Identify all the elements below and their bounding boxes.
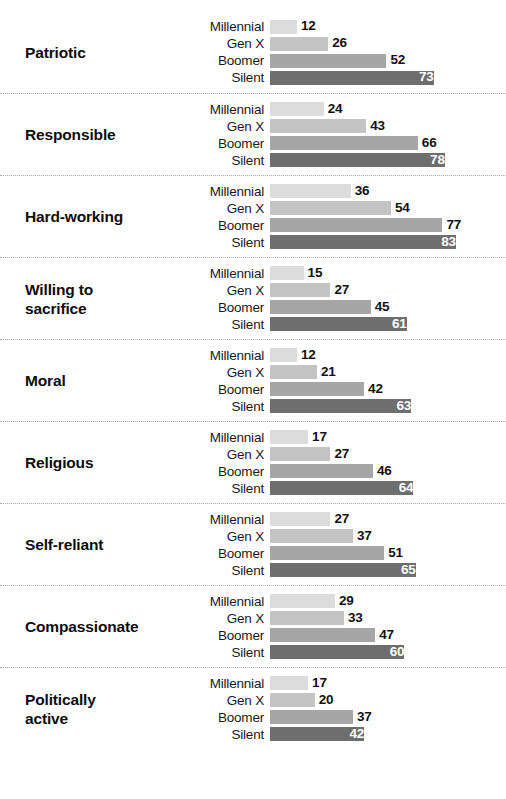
bar-track: 33 xyxy=(270,611,506,626)
bar-group: Millennial17Gen X27Boomer46Silent64 xyxy=(185,427,506,499)
generation-label: Gen X xyxy=(185,693,270,708)
bar-row: Boomer46 xyxy=(185,463,506,480)
bar xyxy=(270,529,353,543)
bar xyxy=(270,136,418,150)
bar-row: Gen X27 xyxy=(185,282,506,299)
bar-row: Silent60 xyxy=(185,644,506,661)
bar-value-label: 20 xyxy=(315,693,334,707)
bar-group: Millennial29Gen X33Boomer47Silent60 xyxy=(185,591,506,663)
generation-label: Boomer xyxy=(185,710,270,725)
generation-label: Silent xyxy=(185,563,270,578)
bar-value-label: 24 xyxy=(324,102,343,116)
bar xyxy=(270,611,344,625)
bar-row: Millennial36 xyxy=(185,183,506,200)
bar-row: Silent65 xyxy=(185,562,506,579)
bar-value-label: 33 xyxy=(344,611,363,625)
generation-label: Silent xyxy=(185,153,270,168)
bar-row: Gen X43 xyxy=(185,118,506,135)
generation-label: Millennial xyxy=(185,102,270,117)
bar xyxy=(270,54,386,68)
category-block: MoralMillennial12Gen X21Boomer42Silent63 xyxy=(0,339,506,421)
bar-row: Silent63 xyxy=(185,398,506,415)
category-block: Hard-workingMillennial36Gen X54Boomer77S… xyxy=(0,175,506,257)
bar-track: 17 xyxy=(270,676,506,691)
generation-label: Boomer xyxy=(185,546,270,561)
bar-value-label: 36 xyxy=(351,184,370,198)
bar-value-label: 51 xyxy=(384,546,403,560)
bar-value-label: 52 xyxy=(386,53,405,67)
bar xyxy=(270,512,330,526)
bar-track: 36 xyxy=(270,184,506,199)
category-block: PoliticallyactiveMillennial17Gen X20Boom… xyxy=(0,667,506,749)
bar-value-label: 64 xyxy=(270,481,417,495)
bar xyxy=(270,546,384,560)
bar-track: 12 xyxy=(270,348,506,363)
category-label-line: Moral xyxy=(25,371,185,390)
chart-footnote xyxy=(24,785,494,797)
bar-track: 77 xyxy=(270,218,506,233)
generation-label: Boomer xyxy=(185,464,270,479)
generation-label: Millennial xyxy=(185,512,270,527)
bar-row: Millennial17 xyxy=(185,429,506,446)
generation-label: Silent xyxy=(185,645,270,660)
bar xyxy=(270,201,391,215)
category-label-line: Willing to xyxy=(25,280,185,299)
bar-value-label: 12 xyxy=(297,348,316,362)
category-label-line: Religious xyxy=(25,453,185,472)
bar-value-label: 47 xyxy=(375,628,394,642)
bar-group: Millennial17Gen X20Boomer37Silent42 xyxy=(185,673,506,745)
category-label: Self-reliant xyxy=(0,535,185,554)
bar-value-label: 17 xyxy=(308,676,327,690)
bar-track: 21 xyxy=(270,365,506,380)
bar-row: Boomer51 xyxy=(185,545,506,562)
bar-track: 52 xyxy=(270,53,506,68)
bar-track: 65 xyxy=(270,563,506,578)
bar-track: 17 xyxy=(270,430,506,445)
bar-row: Millennial12 xyxy=(185,347,506,364)
bar-value-label: 60 xyxy=(270,645,408,659)
bar-value-label: 21 xyxy=(317,365,336,379)
bar xyxy=(270,628,375,642)
bar-row: Boomer42 xyxy=(185,381,506,398)
bar-group: Millennial36Gen X54Boomer77Silent83 xyxy=(185,181,506,253)
bar-row: Silent42 xyxy=(185,726,506,743)
bar-track: 73 xyxy=(270,70,506,85)
bar-row: Boomer37 xyxy=(185,709,506,726)
bar-value-label: 29 xyxy=(335,594,354,608)
bar-track: 83 xyxy=(270,235,506,250)
category-label: Moral xyxy=(0,371,185,390)
generation-label: Millennial xyxy=(185,594,270,609)
generation-label: Millennial xyxy=(185,430,270,445)
bar xyxy=(270,447,330,461)
category-block: Willing tosacrificeMillennial15Gen X27Bo… xyxy=(0,257,506,339)
bar-group: Millennial12Gen X26Boomer52Silent73 xyxy=(185,16,506,88)
bar-track: 37 xyxy=(270,710,506,725)
generation-label: Boomer xyxy=(185,628,270,643)
generation-label: Silent xyxy=(185,70,270,85)
bar-value-label: 42 xyxy=(270,727,368,741)
bar-track: 64 xyxy=(270,481,506,496)
category-block: Self-reliantMillennial27Gen X37Boomer51S… xyxy=(0,503,506,585)
generation-label: Gen X xyxy=(185,611,270,626)
bar-row: Boomer77 xyxy=(185,217,506,234)
category-block: ResponsibleMillennial24Gen X43Boomer66Si… xyxy=(0,93,506,175)
bar-row: Gen X21 xyxy=(185,364,506,381)
bar xyxy=(270,37,328,51)
generation-label: Gen X xyxy=(185,36,270,51)
bar xyxy=(270,20,297,34)
category-label-line: Responsible xyxy=(25,125,185,144)
category-label-line: sacrifice xyxy=(25,299,185,318)
bar xyxy=(270,266,304,280)
chart-body: PatrioticMillennial12Gen X26Boomer52Sile… xyxy=(0,11,506,749)
bar-track: 47 xyxy=(270,628,506,643)
bar-track: 26 xyxy=(270,36,506,51)
bar-row: Silent78 xyxy=(185,152,506,169)
bar-value-label: 37 xyxy=(353,710,372,724)
generation-label: Gen X xyxy=(185,447,270,462)
bar-value-label: 46 xyxy=(373,464,392,478)
bar-value-label: 15 xyxy=(304,266,323,280)
bar-value-label: 26 xyxy=(328,36,347,50)
bar-value-label: 12 xyxy=(297,19,316,33)
bar-row: Gen X54 xyxy=(185,200,506,217)
generation-label: Gen X xyxy=(185,283,270,298)
